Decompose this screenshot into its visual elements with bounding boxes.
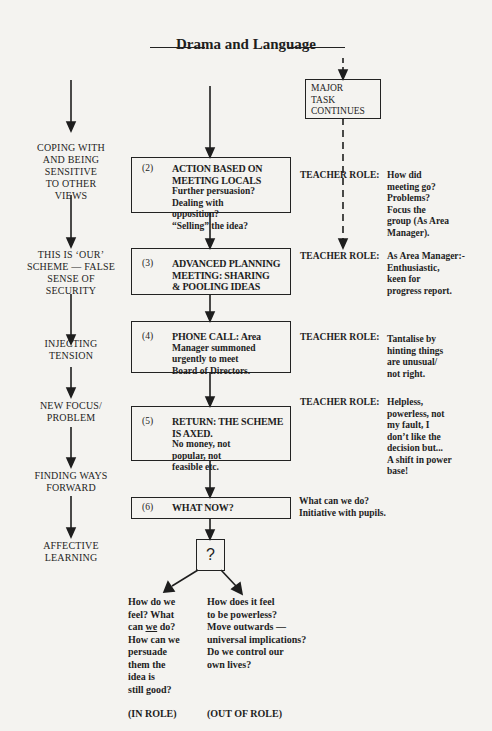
- step-heading: MEETING: SHARING: [172, 270, 284, 282]
- out-of-role-caption: (OUT OF ROLE): [207, 708, 347, 721]
- label-line: SCHEME — FALSE: [11, 261, 131, 273]
- step-box-4: (4) PHONE CALL: Area Manager summoned ur…: [131, 321, 291, 373]
- left-label-false-security: THIS IS ‘OUR’ SCHEME — FALSE SENSE OF SE…: [11, 249, 131, 297]
- major-task-line: CONTINUES: [311, 106, 365, 118]
- step-text: ACTION BASED ON MEETING LOCALS Further p…: [172, 163, 284, 232]
- left-label-new-focus: NEW FOCUS/ PROBLEM: [11, 400, 131, 424]
- label-line: FINDING WAYS: [11, 470, 131, 482]
- branch-line: them the: [128, 659, 208, 672]
- teacher-role-label-4: TEACHER ROLE:: [300, 332, 379, 342]
- step-body: popular, not: [172, 451, 284, 463]
- branch-line: own lives?: [207, 659, 347, 672]
- branch-line: Do we control our: [207, 646, 347, 659]
- branch-line: How can we: [128, 634, 208, 647]
- step-box-6: (6) WHAT NOW?: [131, 497, 291, 519]
- step-body: feasible etc.: [172, 462, 284, 474]
- question-mark-icon: ?: [206, 549, 215, 561]
- decision-box: ?: [196, 539, 225, 571]
- label-line: NEW FOCUS/: [11, 400, 131, 412]
- note-line: are unusual/: [387, 357, 487, 369]
- decision-branch-arrows: [164, 570, 242, 594]
- branch-line: Move outwards —: [207, 621, 347, 634]
- step-text: WHAT NOW?: [172, 502, 284, 514]
- step-body: Manager summoned: [172, 343, 284, 355]
- step-body: urgently to meet: [172, 354, 284, 366]
- label-line: AFFECTIVE: [11, 540, 131, 552]
- label-line: SECURITY: [11, 285, 131, 297]
- label-line: INJECTING: [11, 338, 131, 350]
- step-number: (2): [142, 163, 153, 175]
- note-line: progress report.: [387, 286, 487, 298]
- note-line: don’t like the: [387, 432, 487, 444]
- note-line: not right.: [387, 369, 487, 381]
- note-line: What can we do?: [299, 496, 479, 508]
- step-body: Board of Directors.: [172, 366, 284, 378]
- branch-line: How do we: [128, 596, 208, 609]
- step-heading: WHAT NOW?: [172, 502, 284, 514]
- note-line: group (As Area: [387, 216, 487, 228]
- note-line: keen for: [387, 274, 487, 286]
- note-line: How did: [387, 170, 487, 182]
- note-line: Focus the: [387, 205, 487, 217]
- step-body: No money, not: [172, 439, 284, 451]
- left-label-finding-ways: FINDING WAYS FORWARD: [11, 470, 131, 494]
- step-heading: ACTION BASED ON: [172, 163, 284, 175]
- note-line: Helpless,: [387, 397, 487, 409]
- branch-line: to be powerless?: [207, 609, 347, 622]
- note-line: hinting things: [387, 346, 487, 358]
- teacher-role-note-3: As Area Manager:- Enthusiastic, keen for…: [387, 251, 487, 297]
- label-line: FORWARD: [11, 482, 131, 494]
- step-heading: ADVANCED PLANNING: [172, 258, 284, 270]
- step-heading: RETURN: THE SCHEME: [172, 416, 284, 428]
- step-body: Further persuasion?: [172, 186, 284, 198]
- branch-line: idea is: [128, 671, 208, 684]
- note-line: decision but...: [387, 443, 487, 455]
- major-task-line: TASK: [311, 95, 365, 107]
- note-line: meeting go?: [387, 182, 487, 194]
- teacher-role-label-3: TEACHER ROLE:: [300, 251, 379, 261]
- major-task-box: MAJOR TASK CONTINUES: [305, 79, 381, 119]
- branch-line: How does it feel: [207, 596, 347, 609]
- note-line: powerless, not: [387, 409, 487, 421]
- teacher-role-note-5: Helpless, powerless, not my fault, I don…: [387, 397, 487, 478]
- note-line: Enthusiastic,: [387, 263, 487, 275]
- label-line: SENSITIVE: [11, 166, 131, 178]
- step-box-2: (2) ACTION BASED ON MEETING LOCALS Furth…: [131, 157, 291, 213]
- step-box-5: (5) RETURN: THE SCHEME IS AXED. No money…: [131, 406, 291, 461]
- label-line: COPING WITH: [11, 142, 131, 154]
- step-number: (4): [142, 331, 153, 343]
- label-line: AND BEING: [11, 154, 131, 166]
- step-text: ADVANCED PLANNING MEETING: SHARING & POO…: [172, 258, 284, 293]
- branch-line: universal implications?: [207, 634, 347, 647]
- branch-emphasis: we: [146, 621, 158, 632]
- label-line: TO OTHER: [11, 178, 131, 190]
- branch-line: feel? What: [128, 609, 208, 622]
- note-line: base!: [387, 466, 487, 478]
- step-heading: MEETING LOCALS: [172, 175, 284, 187]
- branch-line: can we do?: [128, 621, 208, 634]
- teacher-role-label-2: TEACHER ROLE:: [300, 170, 379, 180]
- step-number: (6): [142, 502, 153, 514]
- note-line: my fault, I: [387, 420, 487, 432]
- note-line: Manager).: [387, 228, 487, 240]
- step-text: PHONE CALL: Area Manager summoned urgent…: [172, 331, 284, 377]
- major-task-line: MAJOR: [311, 83, 365, 95]
- step-number: (3): [142, 258, 153, 270]
- step-number: (5): [142, 416, 153, 428]
- teacher-role-label-5: TEACHER ROLE:: [300, 397, 379, 407]
- branch-line: still good?: [128, 684, 208, 697]
- branch-text: can: [128, 621, 146, 632]
- teacher-role-note-4: Tantalise by hinting things are unusual/…: [387, 334, 487, 380]
- note-line: Initiative with pupils.: [299, 508, 479, 520]
- note-line: Problems?: [387, 193, 487, 205]
- left-label-coping: COPING WITH AND BEING SENSITIVE TO OTHER…: [11, 142, 131, 202]
- left-label-injecting-tension: INJECTING TENSION: [11, 338, 131, 362]
- branch-text: do?: [157, 621, 175, 632]
- label-line: LEARNING: [11, 552, 131, 564]
- step-body: opposition?: [172, 209, 284, 221]
- step-heading: IS AXED.: [172, 428, 284, 440]
- step-text: RETURN: THE SCHEME IS AXED. No money, no…: [172, 416, 284, 474]
- note-line: As Area Manager:-: [387, 251, 487, 263]
- step-box-3: (3) ADVANCED PLANNING MEETING: SHARING &…: [131, 248, 291, 295]
- branch-out-of-role: How does it feel to be powerless? Move o…: [207, 596, 347, 721]
